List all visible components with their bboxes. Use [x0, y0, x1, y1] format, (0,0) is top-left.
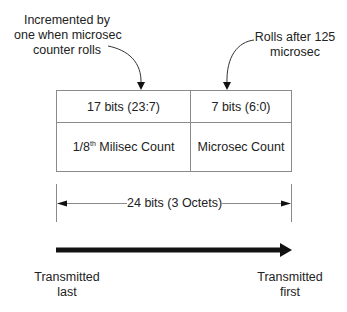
- field-microsec-count: Microsec Count: [191, 123, 291, 171]
- right-annotation: Rolls after 125 microsec: [250, 30, 340, 60]
- transmitted-first-label: Transmitted first: [253, 270, 327, 300]
- left-annotation: Incremented by one when microsec counter…: [14, 13, 120, 58]
- field-17bits-header: 17 bits (23:7): [57, 91, 190, 122]
- field-milisec-count: 1/8th Milisec Count: [57, 123, 190, 171]
- field-7bits-header: 7 bits (6:0): [191, 91, 291, 122]
- dimension-label: 24 bits (3 Octets): [127, 196, 222, 211]
- transmitted-last-label: Transmitted last: [30, 270, 104, 300]
